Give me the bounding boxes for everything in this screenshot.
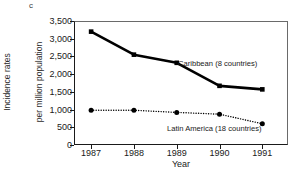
x-tick-mark (220, 145, 221, 149)
y-tick-mark (70, 21, 74, 22)
x-tick-label: 1987 (71, 148, 111, 158)
y-tick-label: 2,500 (32, 52, 72, 61)
y-tick-mark (70, 56, 74, 57)
panel-letter: c (29, 1, 33, 11)
x-tick-mark (91, 145, 92, 149)
x-tick-mark (262, 145, 263, 149)
y-tick-label: 1,000 (32, 105, 72, 114)
y-tick-mark (70, 39, 74, 40)
y-tick-mark (70, 145, 74, 146)
x-tick-label: 1988 (114, 148, 154, 158)
series-label-latin-america: Latin America (18 countries) (167, 124, 262, 133)
y-tick-label: 0 (32, 141, 72, 150)
x-tick-mark (177, 145, 178, 149)
x-tick-label: 1989 (157, 148, 197, 158)
series-label-caribbean: Caribbean (8 countries) (178, 59, 257, 68)
x-tick-mark (134, 145, 135, 149)
y-tick-mark (70, 110, 74, 111)
y-tick-label: 3,500 (32, 17, 72, 26)
y-tick-label: 3,000 (32, 34, 72, 43)
y-tick-mark (70, 92, 74, 93)
y-tick-label: 500 (32, 123, 72, 132)
y-tick-label: 2,000 (32, 70, 72, 79)
y-axis-title-line1: Incidence rates (2, 20, 13, 144)
y-tick-mark (70, 74, 74, 75)
x-tick-label: 1990 (200, 148, 240, 158)
y-tick-mark (70, 127, 74, 128)
y-tick-label: 1,500 (32, 87, 72, 96)
chart-figure: c Incidence rates per million population… (0, 0, 301, 173)
x-tick-label: 1991 (242, 148, 282, 158)
x-axis-title: Year (74, 159, 288, 169)
